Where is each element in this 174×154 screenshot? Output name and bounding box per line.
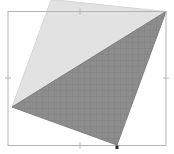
shape-canvas[interactable] xyxy=(0,0,174,154)
geometry-viewport xyxy=(0,0,174,154)
vertex-marker[interactable] xyxy=(116,146,119,150)
